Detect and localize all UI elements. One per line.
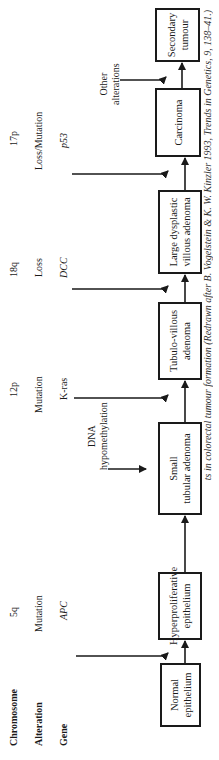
arrow-kras: [74, 395, 168, 398]
arrow-p53: [72, 171, 168, 174]
arrow-dcc: [72, 286, 168, 289]
arrows-layer: [0, 0, 219, 760]
diagram-canvas: Chromosome Alteration Gene 5q Mutation A…: [0, 0, 219, 760]
arrow-apc: [76, 653, 168, 656]
figure-caption: ts in colorectal tumour formation (Redra…: [202, 10, 213, 740]
arrow-other-alterations: [120, 77, 166, 80]
